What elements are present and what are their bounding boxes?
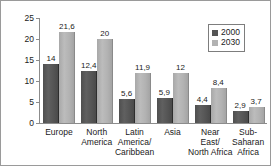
bar-group: 12,420	[81, 18, 112, 123]
y-tick-label-text: 5	[15, 98, 34, 106]
bar-chart-figure: Percent ≥ 65 years 0510152025 1421,612,4…	[0, 0, 271, 166]
legend-item-2000: 2000	[212, 28, 240, 37]
bar-2030-4: 8,4	[211, 88, 227, 123]
bar-group: 5,611,9	[119, 18, 150, 123]
bar-2030-3: 12	[173, 73, 189, 123]
bar-2000-1: 12,4	[81, 71, 97, 123]
y-tick-label: 5	[15, 98, 34, 106]
y-tick-label-text: 0	[15, 119, 34, 127]
bar-value-label: 3,7	[251, 97, 262, 106]
bar-value-label: 11,9	[135, 63, 150, 72]
legend-label-2000: 2000	[221, 28, 240, 37]
bar-value-label: 2,9	[235, 101, 246, 110]
legend-swatch-icon-2000	[212, 30, 218, 36]
bar-group: 5,912	[157, 18, 188, 123]
bar-2030-2: 11,9	[135, 73, 151, 123]
legend-swatch-icon-2030	[212, 40, 218, 46]
bar-2030-1: 20	[97, 39, 113, 123]
bar-2030-5: 3,7	[249, 107, 265, 123]
bar-2000-4: 4,4	[195, 105, 211, 123]
bar-2000-0: 14	[43, 64, 59, 123]
bar-value-label: 4,4	[197, 95, 208, 104]
bar-value-label: 8,4	[213, 78, 224, 87]
bar-2030-0: 21,6	[59, 32, 75, 123]
y-tick-label: 25	[15, 14, 34, 22]
bar-2000-5: 2,9	[233, 111, 249, 123]
x-axis-line	[39, 123, 267, 124]
bar-value-label: 21,6	[59, 22, 75, 31]
bar-value-label: 12,4	[81, 61, 97, 70]
bar-value-label: 5,9	[159, 88, 170, 97]
bar-value-label: 5,6	[121, 89, 132, 98]
bar-group: 1421,6	[43, 18, 74, 123]
legend-label-2030: 2030	[221, 38, 240, 47]
bar-2000-3: 5,9	[157, 98, 173, 123]
y-tick-label: 20	[15, 35, 34, 43]
bar-value-label: 20	[100, 29, 109, 38]
bar-value-label: 14	[46, 54, 55, 63]
chart-legend: 2000 2030	[208, 24, 245, 52]
y-tick-label-text: 10	[15, 77, 34, 85]
category-label: Sub-Saharan Africa	[223, 127, 271, 157]
y-tick-label-text: 25	[15, 14, 34, 22]
bar-value-label: 12	[176, 63, 185, 72]
y-tick-label-text: 20	[15, 35, 34, 43]
bar-2000-2: 5,6	[119, 99, 135, 123]
y-tick-label: 15	[15, 56, 34, 64]
y-tick-label: 0	[15, 119, 34, 127]
legend-item-2030: 2030	[212, 38, 240, 47]
y-tick-label-text: 15	[15, 56, 34, 64]
y-tick-label: 10	[15, 77, 34, 85]
